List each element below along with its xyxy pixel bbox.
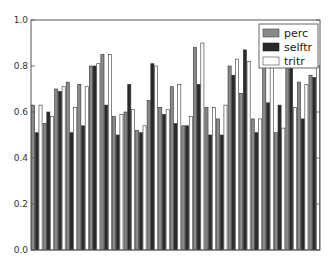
bar-selftr-17 [220, 135, 223, 250]
y-tick-label: 1.0 [14, 15, 29, 25]
bar-selftr-1 [35, 133, 38, 250]
bar-perc-3 [55, 89, 58, 250]
bar-tritr-7 [108, 55, 111, 251]
bar-tritr-6 [97, 64, 100, 250]
bar-perc-1 [32, 105, 35, 250]
bar-tritr-13 [178, 84, 181, 250]
bar-tritr-12 [166, 110, 169, 250]
legend-swatch-selftr [263, 43, 279, 51]
bar-tritr-14 [189, 117, 192, 250]
bar-perc-12 [159, 107, 162, 250]
bar-perc-14 [182, 126, 185, 250]
bar-selftr-12 [162, 114, 165, 250]
bar-selftr-16 [209, 135, 212, 250]
bar-selftr-22 [278, 105, 281, 250]
bar-selftr-4 [70, 133, 73, 250]
bars-group [32, 43, 320, 250]
bar-perc-16 [205, 107, 208, 250]
bar-perc-22 [274, 133, 277, 250]
legend-swatch-tritr [263, 57, 279, 65]
legend-label-perc: perc [284, 27, 308, 40]
bar-tritr-9 [131, 110, 134, 250]
bar-perc-11 [147, 101, 150, 251]
legend-swatch-perc [263, 29, 279, 37]
bar-tritr-1 [39, 105, 42, 250]
bar-selftr-5 [81, 126, 84, 250]
y-tick-label: 0.8 [14, 61, 29, 71]
bar-tritr-3 [62, 87, 65, 250]
bar-selftr-3 [58, 91, 61, 250]
legend-label-tritr: tritr [284, 55, 305, 68]
bar-perc-25 [309, 75, 312, 250]
bar-selftr-15 [197, 84, 200, 250]
bar-perc-13 [170, 87, 173, 250]
bar-perc-5 [78, 84, 81, 250]
bar-tritr-5 [85, 87, 88, 250]
bar-perc-21 [263, 61, 266, 250]
bar-tritr-20 [259, 119, 262, 250]
bar-selftr-19 [243, 50, 246, 250]
bar-tritr-2 [51, 117, 54, 250]
bar-perc-8 [112, 117, 115, 250]
bar-selftr-13 [174, 124, 177, 251]
bar-tritr-4 [74, 107, 77, 250]
bar-tritr-18 [235, 59, 238, 250]
bar-selftr-6 [93, 66, 96, 250]
bar-perc-24 [297, 82, 300, 250]
bar-tritr-16 [212, 107, 215, 250]
bar-selftr-11 [151, 64, 154, 250]
bar-tritr-21 [270, 64, 273, 250]
y-tick-label: 0.4 [14, 153, 29, 163]
y-tick-label: 0.0 [14, 245, 29, 255]
bar-tritr-24 [305, 84, 308, 250]
bar-tritr-19 [247, 61, 250, 250]
bar-tritr-23 [293, 107, 296, 250]
bar-selftr-10 [139, 133, 142, 250]
bar-perc-20 [251, 119, 254, 250]
y-tick-label: 0.6 [14, 107, 29, 117]
bar-selftr-25 [313, 78, 316, 251]
bar-perc-18 [228, 66, 231, 250]
bar-selftr-20 [255, 133, 258, 250]
bar-tritr-15 [201, 43, 204, 250]
bar-tritr-8 [120, 114, 123, 250]
bar-chart: 0.00.20.40.60.81.0 perc selftr tritr [0, 0, 336, 267]
bar-perc-9 [124, 112, 127, 250]
bar-tritr-10 [143, 126, 146, 250]
bar-perc-6 [89, 66, 92, 250]
y-tick-label: 0.2 [14, 199, 28, 209]
bar-tritr-22 [282, 128, 285, 250]
bar-perc-4 [66, 82, 69, 250]
bar-selftr-2 [47, 112, 50, 250]
bar-selftr-8 [116, 135, 119, 250]
legend: perc selftr tritr [259, 24, 318, 68]
bar-selftr-9 [128, 84, 131, 250]
bar-perc-19 [240, 94, 243, 250]
bar-tritr-11 [155, 66, 158, 250]
bar-perc-23 [286, 61, 289, 250]
bar-selftr-23 [290, 55, 293, 251]
bar-perc-10 [136, 130, 139, 250]
bar-selftr-18 [232, 75, 235, 250]
bar-selftr-14 [186, 126, 189, 250]
bar-perc-17 [216, 119, 219, 250]
bar-perc-7 [101, 55, 104, 251]
bar-tritr-17 [224, 105, 227, 250]
bar-selftr-21 [266, 103, 269, 250]
legend-label-selftr: selftr [284, 41, 313, 54]
bar-perc-15 [193, 48, 196, 250]
bar-selftr-7 [105, 105, 108, 250]
bar-perc-2 [43, 124, 46, 251]
bar-selftr-24 [301, 119, 304, 250]
